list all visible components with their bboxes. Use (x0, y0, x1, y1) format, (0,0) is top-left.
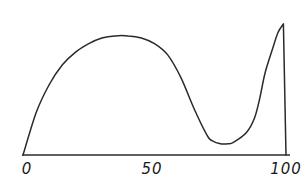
x-tick-label-0: 0 (22, 160, 33, 178)
line-chart (0, 0, 308, 186)
x-tick-label-100: 100 (270, 160, 302, 178)
x-tick-label-50: 50 (141, 160, 162, 178)
data-curve (23, 24, 286, 155)
